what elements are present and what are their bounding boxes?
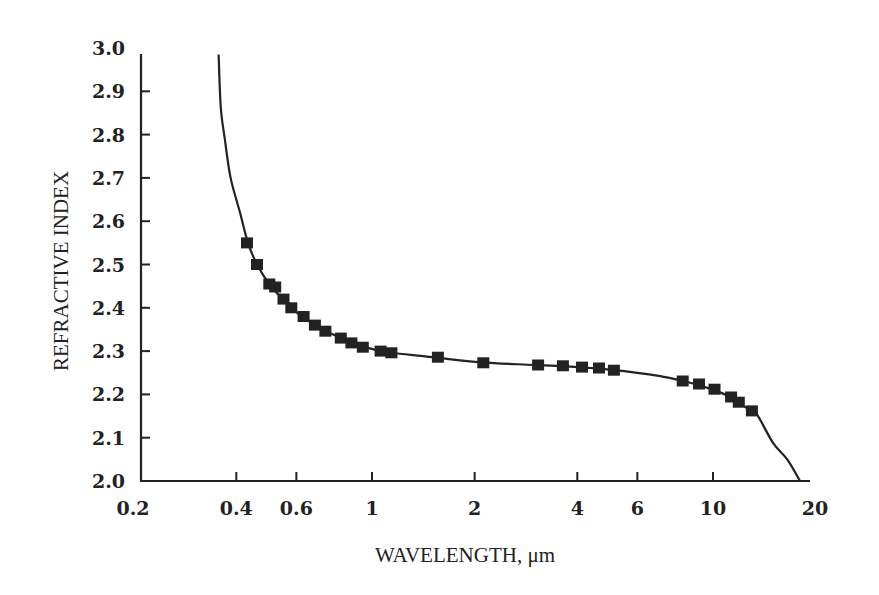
y-tick-label: 2.6: [92, 210, 125, 232]
y-axis-title: REFRACTIVE INDEX: [49, 171, 73, 371]
data-point-marker: [251, 259, 263, 270]
data-point-marker: [309, 320, 321, 331]
data-point-marker: [608, 365, 620, 376]
data-point-marker: [746, 405, 758, 416]
data-point-marker: [557, 360, 569, 371]
data-point-marker: [733, 397, 745, 408]
y-tick-label: 3.0: [92, 37, 125, 59]
data-point-marker: [593, 363, 605, 374]
y-tick-label: 2.9: [92, 80, 125, 102]
x-tick-label: 0.6: [280, 497, 313, 519]
data-point-marker: [375, 346, 387, 357]
x-tick-label: 2: [468, 497, 481, 519]
y-tick-label: 2.3: [92, 340, 125, 362]
data-point-marker: [345, 337, 357, 348]
y-tick-label: 2.0: [92, 470, 125, 492]
data-point-marker: [298, 311, 310, 322]
y-tick-label: 2.1: [92, 427, 125, 449]
y-tick-label: 2.7: [92, 167, 125, 189]
data-point-marker: [241, 237, 253, 248]
data-point-marker: [319, 326, 331, 337]
x-tick-label: 6: [631, 497, 644, 519]
data-point-marker: [677, 376, 689, 387]
y-tick-label: 2.4: [92, 297, 125, 319]
x-tick-label: 0.2: [116, 497, 149, 519]
x-axis-title: WAVELENGTH, μm: [375, 543, 555, 567]
data-point-marker: [693, 379, 705, 390]
data-point-marker: [576, 362, 588, 373]
data-point-marker: [285, 302, 297, 313]
x-tick-label: 1: [365, 497, 378, 519]
data-markers: [241, 237, 758, 416]
data-point-marker: [335, 333, 347, 344]
data-point-marker: [477, 357, 489, 368]
y-tick-label: 2.5: [92, 254, 125, 276]
fit-curve: [219, 55, 800, 482]
data-point-marker: [357, 342, 369, 353]
chart: 0.20.40.612461020 2.02.12.22.32.42.52.62…: [0, 0, 879, 595]
data-point-marker: [385, 347, 397, 358]
x-tick-label: 20: [802, 497, 828, 519]
y-tick-label: 2.8: [92, 124, 125, 146]
x-tick-label: 4: [571, 497, 584, 519]
data-point-marker: [269, 282, 281, 293]
axes: [140, 54, 810, 482]
x-tick-label: 0.4: [220, 497, 253, 519]
y-tick-label: 2.2: [92, 383, 125, 405]
data-point-marker: [532, 360, 544, 371]
x-axis-ticks: 0.20.40.612461020: [116, 472, 828, 519]
data-point-marker: [432, 352, 444, 363]
data-point-marker: [709, 384, 721, 395]
x-tick-label: 10: [700, 497, 726, 519]
